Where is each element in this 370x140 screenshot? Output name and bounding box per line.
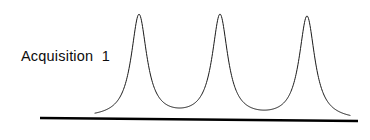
trace-figure: Acquisition 1 bbox=[0, 0, 370, 140]
signal-trace-plot bbox=[0, 0, 370, 140]
acquisition-label: Acquisition 1 bbox=[21, 47, 110, 65]
